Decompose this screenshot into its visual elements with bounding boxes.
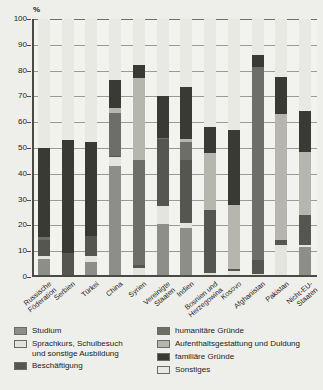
legend-label: Aufenthaltsgestattung und Duldung: [175, 339, 317, 349]
legend-item: Sonstiges: [157, 365, 317, 375]
y-axis-tick-mark: [27, 200, 31, 201]
plot-area: [32, 19, 317, 277]
bar-segment[interactable]: [252, 55, 264, 67]
bar-segment[interactable]: [299, 19, 311, 111]
bar-segment[interactable]: [275, 114, 287, 239]
y-axis-tick-label: 10: [1, 247, 27, 255]
bar-segment[interactable]: [204, 19, 216, 127]
bar-segment[interactable]: [157, 139, 169, 206]
bar-segment[interactable]: [157, 224, 169, 277]
gridline: [32, 71, 317, 72]
y-axis-tick-mark: [27, 174, 31, 175]
bar-stack[interactable]: [299, 19, 311, 277]
legend: StudiumSprachkurs, Schulbesuch und sonst…: [10, 326, 313, 382]
legend-item: Studium: [14, 326, 164, 336]
legend-swatch: [157, 327, 170, 335]
bar-segment[interactable]: [38, 148, 50, 237]
bar-segment[interactable]: [275, 77, 287, 114]
bar-stack[interactable]: [38, 19, 50, 277]
bar-segment[interactable]: [252, 19, 264, 55]
bar-segment[interactable]: [62, 140, 74, 252]
bar-segment[interactable]: [180, 228, 192, 277]
bar-segment[interactable]: [109, 166, 121, 277]
bar-stack[interactable]: [62, 19, 74, 277]
legend-column-left: StudiumSprachkurs, Schulbesuch und sonst…: [14, 326, 164, 374]
bar-segment[interactable]: [109, 19, 121, 80]
bar-segment[interactable]: [38, 240, 50, 257]
bar-segment[interactable]: [62, 253, 74, 278]
legend-swatch: [157, 340, 170, 348]
y-axis-tick-label: 40: [1, 170, 27, 178]
y-axis-tick-mark: [27, 71, 31, 72]
gridline: [32, 19, 317, 20]
y-axis-tick-label: 70: [1, 92, 27, 100]
bar-stack[interactable]: [180, 19, 192, 277]
legend-item: Aufenthaltsgestattung und Duldung: [157, 339, 317, 349]
bar-segment[interactable]: [157, 206, 169, 224]
bar-segment[interactable]: [228, 19, 240, 130]
gridline: [32, 45, 317, 46]
bar-segment[interactable]: [180, 19, 192, 87]
legend-label: humanitäre Gründe: [175, 326, 317, 336]
y-axis-tick-mark: [27, 225, 31, 226]
bar-segment[interactable]: [109, 157, 121, 166]
y-axis-tick-mark: [27, 277, 31, 278]
gridline: [32, 122, 317, 123]
bar-segment[interactable]: [228, 130, 240, 205]
bar-segment[interactable]: [133, 19, 145, 65]
bar-segment[interactable]: [85, 19, 97, 142]
bar-segment[interactable]: [109, 80, 121, 108]
bar-segment[interactable]: [157, 96, 169, 137]
y-axis-tick-mark: [27, 251, 31, 252]
bar-segment[interactable]: [85, 142, 97, 236]
bar-stack[interactable]: [157, 19, 169, 277]
bar-stack[interactable]: [133, 19, 145, 277]
y-axis-tick-mark: [27, 45, 31, 46]
bar-segment[interactable]: [299, 111, 311, 152]
bar-stack[interactable]: [85, 19, 97, 277]
legend-label: Sonstiges: [175, 365, 317, 375]
y-axis-unit-label: %: [33, 6, 40, 14]
bar-stack[interactable]: [204, 19, 216, 277]
bar-stack[interactable]: [228, 19, 240, 277]
legend-swatch: [14, 340, 27, 348]
legend-swatch: [14, 327, 27, 335]
y-axis-tick-label: 30: [1, 196, 27, 204]
bar-segment[interactable]: [299, 247, 311, 277]
y-axis-tick-label: 100: [1, 15, 27, 23]
legend-label: Sprachkurs, Schulbesuch und sonstige Aus…: [32, 339, 164, 358]
bar-segment[interactable]: [252, 260, 264, 274]
bar-segment[interactable]: [133, 65, 145, 78]
y-axis-tick-mark: [27, 19, 31, 20]
bar-segment[interactable]: [275, 19, 287, 77]
gridline: [32, 174, 317, 175]
bar-segment[interactable]: [180, 160, 192, 223]
bar-stack[interactable]: [109, 19, 121, 277]
bar-segment[interactable]: [85, 236, 97, 257]
bar-segment[interactable]: [133, 160, 145, 266]
bar-segment[interactable]: [38, 19, 50, 148]
bar-segment[interactable]: [299, 215, 311, 245]
bar-segment[interactable]: [299, 152, 311, 215]
bar-segment[interactable]: [180, 87, 192, 139]
bar-segment[interactable]: [228, 205, 240, 270]
legend-swatch: [157, 353, 170, 361]
bar-segment[interactable]: [62, 19, 74, 140]
bar-stack[interactable]: [275, 19, 287, 277]
legend-label: familiäre Gründe: [175, 352, 317, 362]
bar-segment[interactable]: [109, 113, 121, 156]
y-axis-tick-label: 20: [1, 221, 27, 229]
legend-item: familiäre Gründe: [157, 352, 317, 362]
bar-stack[interactable]: [252, 19, 264, 277]
bar-segment[interactable]: [204, 153, 216, 210]
legend-item: humanitäre Gründe: [157, 326, 317, 336]
y-axis-tick-mark: [27, 122, 31, 123]
bar-segment[interactable]: [204, 210, 216, 273]
bar-segment[interactable]: [133, 78, 145, 159]
legend-swatch: [157, 366, 170, 374]
bar-segment[interactable]: [204, 127, 216, 153]
bar-segment[interactable]: [252, 67, 264, 261]
bar-segment[interactable]: [275, 245, 287, 277]
bar-segment[interactable]: [180, 142, 192, 160]
bar-segment[interactable]: [157, 19, 169, 96]
